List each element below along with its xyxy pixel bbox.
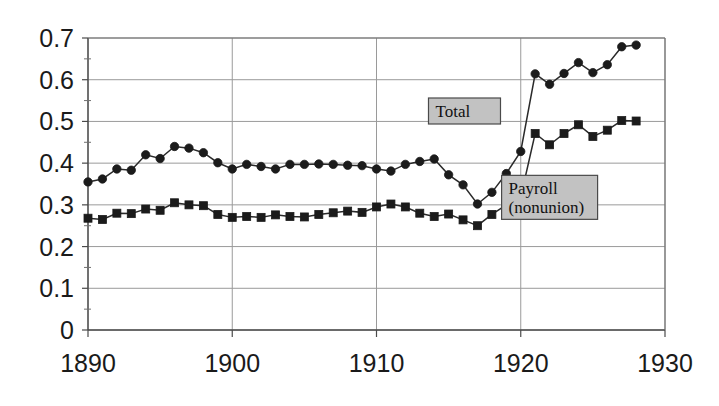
data-point-marker — [271, 165, 279, 173]
data-point-marker — [430, 213, 438, 221]
y-axis-tick-label: 0.7 — [39, 24, 74, 52]
data-point-marker — [618, 43, 626, 51]
data-point-marker — [113, 165, 121, 173]
legend-label-text: (nonunion) — [509, 198, 585, 217]
y-axis-tick-label: 0.2 — [39, 233, 74, 261]
data-point-marker — [127, 210, 135, 218]
data-point-marker — [156, 154, 164, 162]
x-axis-tick-label: 1930 — [637, 349, 693, 377]
data-point-marker — [228, 213, 236, 221]
data-point-marker — [84, 178, 92, 186]
data-point-marker — [214, 210, 222, 218]
data-point-marker — [156, 206, 164, 214]
data-point-marker — [401, 203, 409, 211]
data-point-marker — [444, 171, 452, 179]
data-point-marker — [344, 207, 352, 215]
x-axis-tick-label: 1910 — [349, 349, 405, 377]
data-point-marker — [373, 203, 381, 211]
data-point-marker — [171, 199, 179, 207]
data-point-marker — [488, 210, 496, 218]
data-point-marker — [387, 200, 395, 208]
data-point-marker — [242, 160, 250, 168]
data-point-marker — [603, 126, 611, 134]
y-axis-tick-label: 0 — [60, 316, 74, 344]
data-point-marker — [603, 60, 611, 68]
x-axis-tick-label: 1920 — [493, 349, 549, 377]
data-point-marker — [531, 130, 539, 138]
data-point-marker — [286, 160, 294, 168]
data-point-marker — [300, 213, 308, 221]
data-point-marker — [300, 160, 308, 168]
data-point-marker — [358, 161, 366, 169]
data-point-marker — [257, 213, 265, 221]
y-axis-tick-label: 0.1 — [39, 274, 74, 302]
data-point-marker — [488, 188, 496, 196]
data-point-marker — [387, 167, 395, 175]
data-point-marker — [127, 166, 135, 174]
data-point-marker — [199, 149, 207, 157]
data-point-marker — [185, 144, 193, 152]
data-point-marker — [329, 160, 337, 168]
data-point-marker — [286, 213, 294, 221]
data-point-marker — [214, 159, 222, 167]
data-point-marker — [560, 130, 568, 138]
data-point-marker — [632, 41, 640, 49]
data-point-marker — [574, 121, 582, 129]
data-point-marker — [372, 165, 380, 173]
legend-label-text: Total — [435, 102, 470, 121]
data-point-marker — [416, 209, 424, 217]
legend-label-text: Payroll — [509, 179, 558, 198]
data-point-marker — [170, 142, 178, 150]
data-point-marker — [329, 209, 337, 217]
legend-box-total: Total — [428, 98, 500, 124]
data-point-marker — [618, 117, 626, 125]
x-axis-tick-label: 1900 — [204, 349, 260, 377]
data-point-marker — [546, 141, 554, 149]
data-point-marker — [473, 200, 481, 208]
data-point-marker — [358, 208, 366, 216]
data-point-marker — [589, 132, 597, 140]
data-point-marker — [401, 160, 409, 168]
data-point-marker — [142, 205, 150, 213]
data-point-marker — [473, 222, 481, 230]
y-axis-tick-label: 0.4 — [39, 149, 74, 177]
data-point-marker — [416, 157, 424, 165]
data-point-marker — [113, 209, 121, 217]
data-point-marker — [560, 69, 568, 77]
data-point-marker — [589, 68, 597, 76]
chart-container: 00.10.20.30.40.50.60.7 18901900191019201… — [0, 0, 719, 406]
data-point-marker — [98, 215, 106, 223]
data-point-marker — [459, 181, 467, 189]
data-point-marker — [632, 117, 640, 125]
data-point-marker — [98, 175, 106, 183]
data-point-marker — [459, 216, 467, 224]
data-point-marker — [185, 201, 193, 209]
data-point-marker — [574, 58, 582, 66]
data-point-marker — [257, 162, 265, 170]
data-point-marker — [343, 161, 351, 169]
data-point-marker — [445, 210, 453, 218]
y-axis-tick-label: 0.6 — [39, 66, 74, 94]
legend-box-payroll: Payroll(nonunion) — [502, 175, 598, 219]
y-axis-tick-label: 0.5 — [39, 107, 74, 135]
data-point-marker — [199, 202, 207, 210]
data-point-marker — [430, 155, 438, 163]
line-chart-svg: 00.10.20.30.40.50.60.7 18901900191019201… — [0, 0, 719, 406]
data-point-marker — [228, 165, 236, 173]
data-point-marker — [531, 70, 539, 78]
data-point-marker — [315, 210, 323, 218]
data-point-marker — [545, 80, 553, 88]
data-point-marker — [84, 214, 92, 222]
x-axis-tick-label: 1890 — [60, 349, 116, 377]
data-point-marker — [315, 160, 323, 168]
data-point-marker — [142, 151, 150, 159]
data-point-marker — [517, 147, 525, 155]
data-point-marker — [243, 213, 251, 221]
data-point-marker — [272, 211, 280, 219]
y-axis-tick-label: 0.3 — [39, 191, 74, 219]
